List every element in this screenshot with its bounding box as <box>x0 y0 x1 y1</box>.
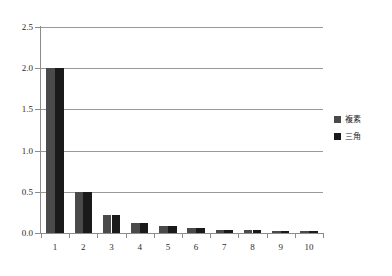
bar <box>75 192 84 233</box>
y-tick-mark <box>35 68 40 69</box>
y-tick-label: 1.0 <box>2 146 33 156</box>
x-tick-label: 6 <box>182 242 210 253</box>
x-tick-mark <box>97 234 98 238</box>
bar <box>168 226 177 233</box>
y-tick-mark <box>35 109 40 110</box>
y-tick-mark <box>35 151 40 152</box>
y-axis-line <box>40 26 41 234</box>
gridline <box>41 109 323 110</box>
y-tick-label: 1.5 <box>2 104 33 114</box>
x-tick-label: 1 <box>41 242 69 253</box>
bar-chart: 0.00.51.01.52.02.5 12345678910 複素三角 <box>0 0 392 276</box>
y-tick-mark <box>35 192 40 193</box>
bar <box>112 215 121 233</box>
x-tick-mark <box>182 234 183 238</box>
x-tick-label: 10 <box>295 242 323 253</box>
x-tick-mark <box>41 234 42 238</box>
y-tick-mark <box>35 27 40 28</box>
legend-swatch-icon <box>334 133 341 140</box>
x-tick-label: 7 <box>210 242 238 253</box>
x-tick-mark <box>126 234 127 238</box>
plot-area <box>41 27 323 233</box>
y-tick-label: 0.5 <box>2 187 33 197</box>
x-tick-label: 9 <box>267 242 295 253</box>
gridline <box>41 27 323 28</box>
x-tick-mark <box>323 234 324 238</box>
legend-swatch-icon <box>334 116 341 123</box>
x-tick-label: 4 <box>126 242 154 253</box>
legend-item: 複素 <box>334 111 392 128</box>
bar <box>140 223 149 233</box>
bar <box>159 226 168 233</box>
x-tick-label: 8 <box>238 242 266 253</box>
x-tick-mark <box>238 234 239 238</box>
y-tick-label: 0.0 <box>2 228 33 238</box>
bar <box>103 215 112 233</box>
y-tick-label: 2.0 <box>2 63 33 73</box>
x-tick-mark <box>69 234 70 238</box>
x-tick-label: 3 <box>97 242 125 253</box>
bar <box>83 192 92 233</box>
x-tick-label: 2 <box>69 242 97 253</box>
x-tick-mark <box>295 234 296 238</box>
legend-label: 複素 <box>345 115 361 124</box>
bar <box>131 223 140 233</box>
bar <box>46 68 55 233</box>
x-tick-mark <box>210 234 211 238</box>
x-tick-mark <box>154 234 155 238</box>
chart-legend: 複素三角 <box>334 111 392 145</box>
y-tick-mark <box>35 233 40 234</box>
x-tick-label: 5 <box>154 242 182 253</box>
legend-item: 三角 <box>334 128 392 145</box>
bar <box>55 68 64 233</box>
x-tick-mark <box>267 234 268 238</box>
gridline <box>41 151 323 152</box>
legend-label: 三角 <box>345 132 361 141</box>
gridline <box>41 68 323 69</box>
y-tick-label: 2.5 <box>2 22 33 32</box>
